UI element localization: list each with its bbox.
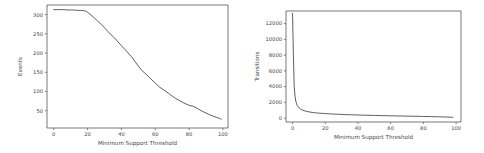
x-tick-label: 80 bbox=[420, 125, 427, 131]
x-tick-label: 100 bbox=[218, 131, 228, 137]
y-tick-label: 12000 bbox=[265, 20, 282, 26]
figure-two-panel-line-charts: 020406080100 50100150200250300 Minimum S… bbox=[0, 0, 484, 153]
x-ticks-right: 020406080100 bbox=[291, 122, 461, 131]
x-axis-label-left: Minimum Support Threshold bbox=[98, 140, 178, 147]
chart-panel-transitions: 020406080100 020004000600080001000012000… bbox=[242, 0, 484, 153]
x-ticks-left: 020406080100 bbox=[52, 128, 228, 137]
y-tick-label: 50 bbox=[36, 108, 43, 114]
data-line-events bbox=[54, 10, 221, 120]
y-tick-label: 2000 bbox=[269, 99, 282, 105]
x-axis-label-right: Minimum Support Threshold bbox=[334, 134, 414, 141]
y-ticks-left: 50100150200250300 bbox=[33, 12, 47, 114]
x-tick-label: 100 bbox=[451, 125, 461, 131]
y-ticks-right: 020004000600080001000012000 bbox=[265, 20, 286, 120]
chart-panel-events: 020406080100 50100150200250300 Minimum S… bbox=[0, 0, 242, 153]
y-tick-label: 10000 bbox=[265, 36, 282, 42]
y-tick-label: 150 bbox=[33, 69, 43, 75]
x-tick-label: 40 bbox=[355, 125, 362, 131]
x-tick-label: 80 bbox=[186, 131, 193, 137]
y-tick-label: 8000 bbox=[269, 52, 282, 58]
y-tick-label: 100 bbox=[33, 88, 43, 94]
x-tick-label: 20 bbox=[84, 131, 91, 137]
data-line-transitions bbox=[293, 13, 453, 117]
y-tick-label: 0 bbox=[279, 115, 282, 121]
y-axis-label-left: Events bbox=[17, 57, 23, 76]
x-tick-label: 0 bbox=[291, 125, 294, 131]
y-tick-label: 200 bbox=[33, 50, 43, 56]
plot-frame-left bbox=[47, 5, 228, 128]
x-tick-label: 60 bbox=[152, 131, 159, 137]
y-tick-label: 6000 bbox=[269, 68, 282, 74]
plot-frame-right bbox=[286, 11, 461, 122]
y-tick-label: 300 bbox=[33, 12, 43, 18]
x-tick-label: 20 bbox=[322, 125, 329, 131]
y-axis-label-right: Transitions bbox=[254, 51, 260, 82]
y-tick-label: 250 bbox=[33, 31, 43, 37]
x-tick-label: 0 bbox=[52, 131, 55, 137]
x-tick-label: 40 bbox=[118, 131, 125, 137]
x-tick-label: 60 bbox=[387, 125, 394, 131]
y-tick-label: 4000 bbox=[269, 83, 282, 89]
